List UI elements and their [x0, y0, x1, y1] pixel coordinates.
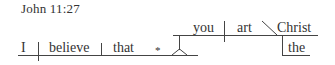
word-subject: I — [21, 41, 26, 55]
word-verb: believe — [49, 41, 89, 55]
word-modifier: the — [288, 41, 305, 55]
word-object-marker: that — [113, 41, 134, 55]
implied-marker: * — [155, 43, 161, 57]
word-predicate-nominative: Christ — [277, 21, 311, 35]
word-clause-subject: you — [193, 21, 214, 35]
predicate-divider — [262, 21, 277, 35]
word-clause-verb: art — [237, 21, 252, 35]
